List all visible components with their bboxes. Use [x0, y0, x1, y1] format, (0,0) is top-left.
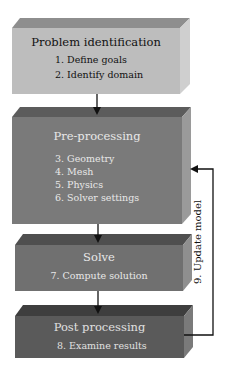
flow-arrows	[0, 0, 226, 381]
feedback-label: 9. Update model	[192, 204, 204, 284]
